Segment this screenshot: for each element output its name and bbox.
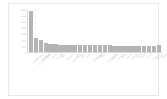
chart-figure: 0500100015002000250030003500 United Stat… [0,0,167,99]
bar [88,45,92,52]
bar [108,45,112,52]
y-axis-tick-label: 3500 [21,9,26,11]
bar [117,46,121,52]
y-axis-tick-label: 3000 [21,15,26,17]
bar [147,46,151,52]
x-axis-tick-labels: United StatesUnited KingdomGermanyChinaF… [27,53,162,97]
bar [157,45,161,52]
y-axis-tick-label: 0 [25,52,26,54]
bar-series [28,10,162,52]
bar [44,43,48,52]
bar [112,46,116,52]
bar [53,44,57,52]
bar [127,46,131,52]
bar [137,46,141,52]
bar [29,11,33,52]
bar [48,44,52,52]
bar [103,45,107,52]
bar [34,38,38,52]
bar [93,45,97,52]
bar [83,45,87,52]
bar [58,45,62,52]
y-axis-tick-labels: 0500100015002000250030003500 [9,6,26,57]
bar [122,46,126,52]
x-axis-tick-label: India [85,53,90,58]
bar [132,46,136,52]
bar [98,45,102,52]
y-axis-tick-label: 1000 [21,40,26,42]
bar [63,45,67,52]
y-axis-tick-label: 2500 [21,21,26,23]
bar [39,40,43,52]
bar [68,45,72,52]
y-axis-tick-label: 1500 [21,33,26,35]
y-axis-tick-label: 2000 [21,27,26,29]
y-axis-tick-label: 500 [22,46,26,48]
plot-area [27,10,162,53]
bar [73,45,77,52]
bar [142,46,146,52]
bar [152,46,156,52]
bar [78,45,82,52]
